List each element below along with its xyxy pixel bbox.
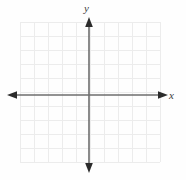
x-axis-arrow-left xyxy=(7,91,17,99)
coordinate-plane-figure: y x xyxy=(0,0,186,180)
y-axis-arrow-up xyxy=(85,17,93,27)
x-axis-arrow-right xyxy=(158,91,168,99)
axes-group xyxy=(0,0,186,180)
y-axis-arrow-down xyxy=(85,163,93,173)
x-axis-label: x xyxy=(169,90,174,101)
y-axis-label: y xyxy=(84,3,89,14)
